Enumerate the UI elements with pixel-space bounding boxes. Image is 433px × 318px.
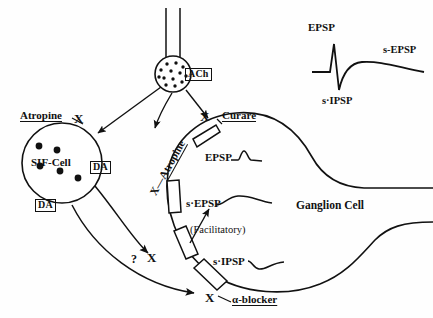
sif-cell-label: SIF-Cell	[31, 157, 71, 168]
transmitter-arrows	[98, 87, 208, 133]
inset-sipsp-label: s·IPSP	[322, 96, 352, 107]
da-label-upper: DA	[90, 161, 111, 174]
facilitatory-blocker-x: X	[147, 251, 156, 264]
arrow-ach-to-sif	[98, 87, 161, 133]
figure-canvas: ACh Atropine X SIF-Cell DA DA X Curare E…	[0, 0, 433, 318]
alpha-blocker-label: α-blocker	[232, 294, 277, 305]
sif-atropine-x: X	[74, 112, 83, 125]
inset-epsp-label: EPSP	[308, 22, 335, 33]
sepsp-response-label: s·EPSP	[186, 198, 221, 209]
alpha-blocker-x: X	[205, 291, 214, 304]
arrow-ach-to-muscarinic	[155, 93, 172, 128]
facilitatory-blocker-question: ?	[131, 253, 137, 265]
ach-label: ACh	[185, 68, 212, 81]
alpha-blocker-lead	[218, 296, 231, 302]
waveform-sipsp-small	[248, 261, 284, 269]
sipsp-response-label: s·IPSP	[213, 256, 245, 267]
ganglion-cell-label: Ganglion Cell	[296, 200, 364, 212]
receptor-muscarinic	[167, 180, 181, 213]
epsp-response-label: EPSP	[205, 152, 232, 163]
curare-x: X	[200, 110, 209, 123]
da-path-lower	[72, 205, 194, 293]
waveform-epsp-small	[231, 151, 262, 161]
da-path-upper	[95, 186, 148, 253]
sif-atropine-label: Atropine	[20, 110, 62, 121]
curare-label: Curare	[222, 110, 256, 121]
facilitatory-label: (Facilitatory)	[190, 225, 245, 236]
inset-sepsp-label: s-EPSP	[383, 45, 416, 56]
presynaptic-axon	[166, 8, 180, 57]
da-label-lower: DA	[35, 199, 56, 212]
receptor-nicotinic	[193, 125, 220, 147]
waveform-sepsp-small	[216, 196, 272, 205]
